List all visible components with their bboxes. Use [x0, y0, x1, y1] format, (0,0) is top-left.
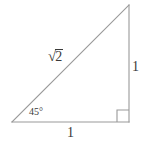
horizontal-leg-length-label: 1 — [67, 126, 74, 140]
triangle-drawing — [0, 0, 147, 143]
angle-measure-label: 45° — [29, 107, 43, 117]
triangle-figure: √2 1 1 45° — [0, 0, 147, 143]
radical-group: √2 — [48, 48, 63, 64]
right-angle-marker-icon — [117, 110, 129, 122]
vertical-leg-length-label: 1 — [132, 60, 139, 74]
triangle-side-hypotenuse — [12, 5, 129, 122]
hypotenuse-length-label: √2 — [48, 48, 63, 64]
radicand-value: 2 — [55, 49, 63, 64]
